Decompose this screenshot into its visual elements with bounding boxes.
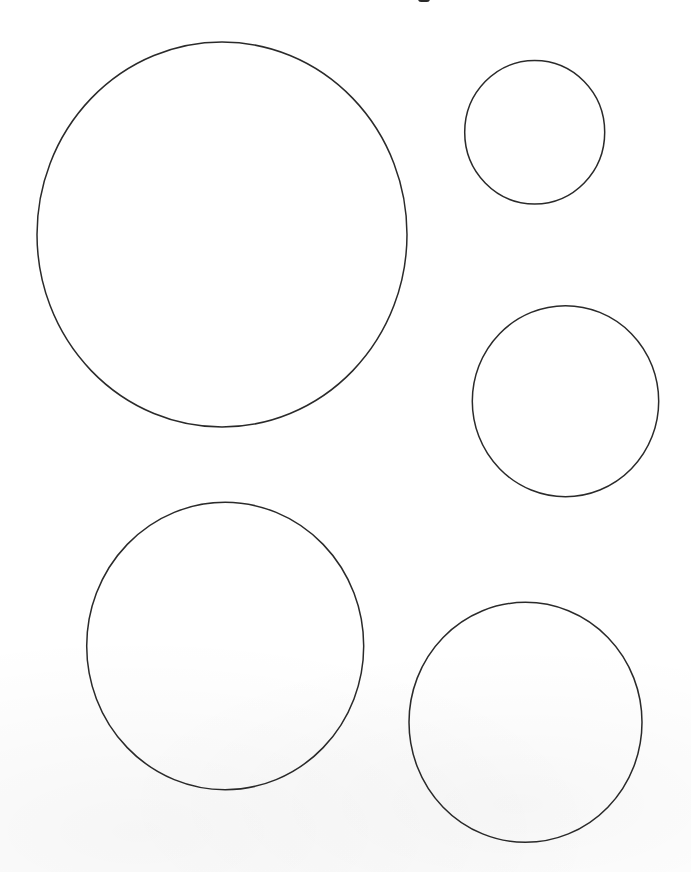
circles-canvas [0,0,691,872]
circle-medium-bottom-right [409,602,642,842]
circle-medium-middle-right [472,306,658,497]
worksheet-page [0,0,691,872]
circle-small-top-right [465,61,605,204]
circle-large-top-left [37,42,407,427]
circle-large-bottom-left [87,502,364,789]
